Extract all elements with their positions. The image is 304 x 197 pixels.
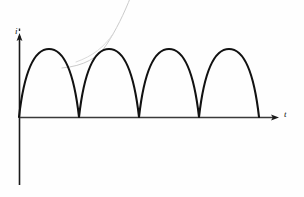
waveform-figure: i t — [0, 0, 304, 197]
horizontal-axis-label: t — [284, 110, 287, 119]
scan-artifact-curve — [62, 0, 131, 68]
vertical-axis-label: i — [15, 27, 18, 36]
rectified-sine-waveform — [19, 49, 259, 117]
waveform-svg-canvas — [0, 0, 304, 197]
